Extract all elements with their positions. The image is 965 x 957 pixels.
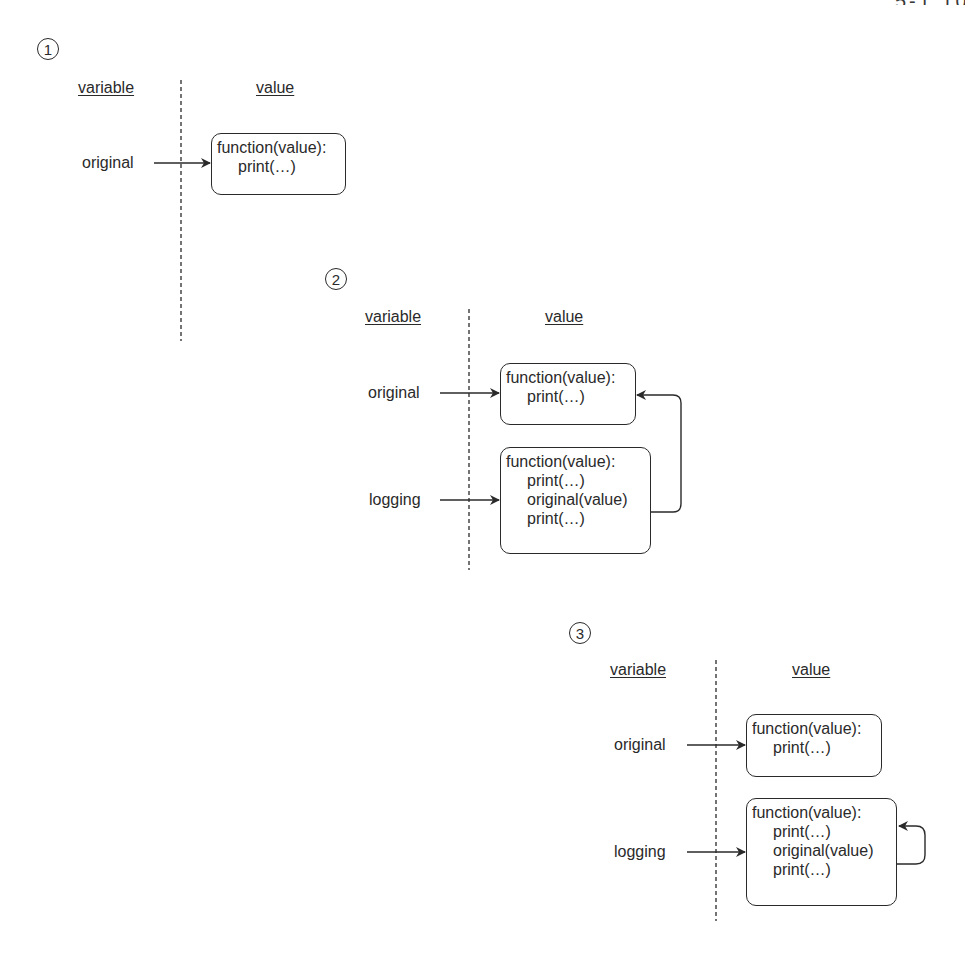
code-line: print(…) <box>752 738 881 757</box>
code-line: print(…) <box>752 860 896 879</box>
code-line: print(…) <box>506 471 650 490</box>
variable-original: original <box>614 736 666 754</box>
code-line: function(value): <box>752 803 896 822</box>
function-value-box: function(value): print(…) <box>211 133 346 195</box>
variable-original: original <box>368 384 420 402</box>
step-number: 3 <box>576 626 584 641</box>
page-header-fragment: 5-1 10.55 <box>895 0 965 5</box>
function-value-box-logging: function(value): print(…) original(value… <box>746 798 897 906</box>
code-line: function(value): <box>752 719 881 738</box>
variable-column-header: variable <box>365 308 421 326</box>
code-line: function(value): <box>506 368 635 387</box>
variable-logging: logging <box>369 491 421 509</box>
code-line: function(value): <box>217 138 345 157</box>
value-column-header: value <box>545 308 583 326</box>
variable-column-header: variable <box>610 661 666 679</box>
function-value-box-original: function(value): print(…) <box>500 363 636 425</box>
value-column-header: value <box>792 661 830 679</box>
code-line: original(value) <box>506 490 650 509</box>
variable-original: original <box>82 154 134 172</box>
call-arrow-logging-to-self <box>897 826 925 864</box>
step-number-badge: 1 <box>37 38 59 60</box>
step-number-badge: 2 <box>325 268 347 290</box>
code-line: function(value): <box>506 452 650 471</box>
step-number: 2 <box>332 272 340 287</box>
page-header-fragment-text: 5-1 10.55 <box>895 0 965 5</box>
code-line: print(…) <box>217 157 345 176</box>
function-value-box-logging: function(value): print(…) original(value… <box>500 447 651 554</box>
code-line: print(…) <box>752 822 896 841</box>
variable-column-header: variable <box>78 79 134 97</box>
code-line: original(value) <box>752 841 896 860</box>
step-number-badge: 3 <box>569 622 591 644</box>
code-line: print(…) <box>506 387 635 406</box>
variable-logging: logging <box>614 843 666 861</box>
step-number: 1 <box>44 42 52 57</box>
code-line: print(…) <box>506 509 650 528</box>
function-value-box-original: function(value): print(…) <box>746 714 882 777</box>
value-column-header: value <box>256 79 294 97</box>
